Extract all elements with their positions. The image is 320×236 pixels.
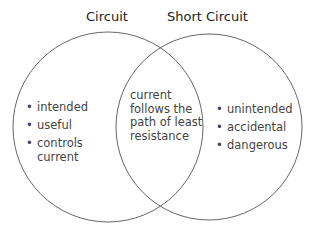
right-list: unintended accidental dangerous: [216, 102, 293, 156]
left-list: intended useful controls current: [26, 100, 97, 168]
list-item: accidental: [216, 120, 293, 134]
left-circle-title: Circuit: [86, 9, 128, 24]
list-item: controls current: [26, 136, 97, 164]
list-item: unintended: [216, 102, 293, 116]
list-item: useful: [26, 118, 97, 132]
overlap-text: current follows the path of least resist…: [130, 89, 210, 143]
list-item: dangerous: [216, 138, 293, 152]
right-circle-title: Short Circuit: [167, 9, 248, 24]
list-item: intended: [26, 100, 97, 114]
